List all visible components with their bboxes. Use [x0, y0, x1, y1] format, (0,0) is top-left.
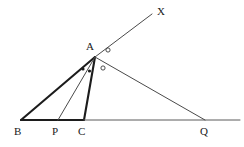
segment-AQ: [95, 57, 205, 120]
angle-dot-PAC: [88, 69, 91, 72]
angle-dot-BAP: [81, 67, 84, 70]
vertex-label-b: B: [14, 126, 21, 137]
vertex-label-x: X: [157, 6, 165, 17]
vertex-label-p: P: [52, 126, 58, 137]
vertex-label-q: Q: [200, 126, 208, 137]
vertex-label-c: C: [78, 126, 85, 137]
figure-strokes: [21, 14, 240, 120]
vertex-label-a: A: [86, 41, 94, 52]
angle-circle-QAX: [106, 48, 110, 52]
ray-AX: [95, 14, 152, 57]
angle-circle-CAQ: [101, 66, 105, 70]
geometry-figure: A B P C Q X: [0, 0, 244, 147]
segment-AB: [21, 57, 95, 120]
